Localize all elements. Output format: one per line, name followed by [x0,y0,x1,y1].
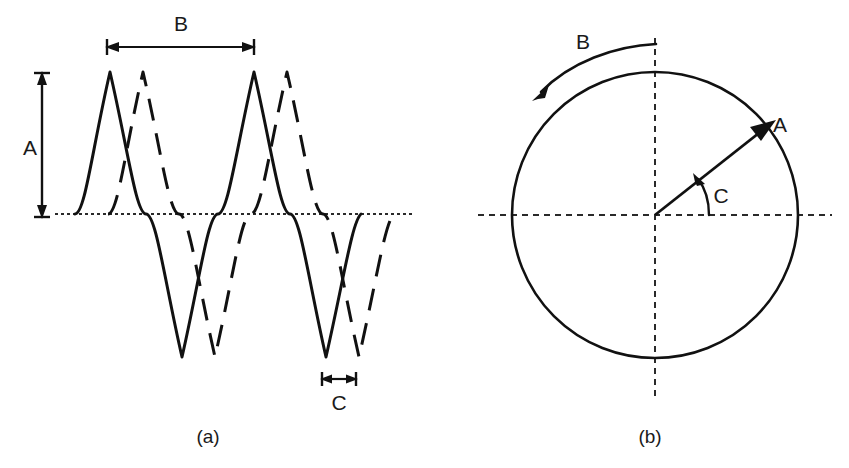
vector-label-a: A [773,113,787,137]
panel-b-phasor: B A C (b) [425,0,849,468]
panel-a-drawing [0,0,425,468]
phase-dimension-c [320,372,358,386]
amplitude-label-a: A [23,136,37,160]
phase-label-c: C [331,391,346,415]
panel-a-waveforms: A B C (a) [0,0,425,468]
period-label-b: B [174,12,188,36]
angle-label-c: C [713,184,728,208]
panel-a-caption: (a) [196,426,219,448]
period-dimension-b [105,39,256,55]
panel-b-caption: (b) [638,426,661,448]
panel-b-drawing [425,0,849,468]
rotation-label-b: B [576,30,590,54]
figure-container: A B C (a) [0,0,849,468]
